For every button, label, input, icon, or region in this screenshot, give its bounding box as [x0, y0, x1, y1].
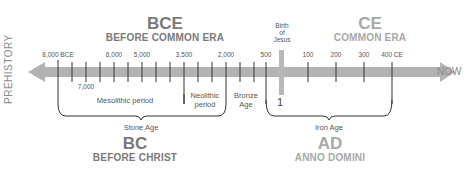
bce-full: BEFORE COMMON ERA [70, 32, 260, 43]
neolithic-line: period [186, 100, 224, 109]
iron-age-label: Iron Age [304, 123, 354, 132]
year-one-label: 1 [277, 96, 283, 108]
bronze-age-label: Bronze Age [228, 91, 264, 109]
bronze-line: Bronze [228, 91, 264, 100]
birth-marker [279, 50, 284, 95]
tick-label-3500: 3,500 [176, 51, 192, 58]
birth-of-jesus-label: Birth of Jesus [266, 22, 298, 43]
tick-label-300: 300 [359, 51, 370, 58]
now-label: NOW [437, 66, 461, 77]
stone-age-label: Stone Age [111, 123, 171, 132]
tick-label-8000: 8,000 BCE [42, 51, 73, 58]
ce-full: COMMON ERA [310, 32, 430, 43]
bc-full: BEFORE CHRIST [75, 152, 195, 163]
birth-label-line: Birth [266, 22, 298, 29]
tick-label-400: 400 CE [381, 51, 403, 58]
tick-label-100: 100 [303, 51, 314, 58]
birth-label-line: Jesus [266, 36, 298, 43]
neolithic-period-label: Neolithic period [186, 91, 224, 109]
ad-abbr: AD [290, 134, 370, 154]
birth-label-line: of [266, 29, 298, 36]
bc-abbr: BC [95, 134, 175, 154]
ad-full: ANNO DOMINI [280, 152, 380, 163]
tick-label-200: 200 [331, 51, 342, 58]
bronze-line: Age [228, 100, 264, 109]
tick-label-7000: 7,000 [78, 83, 94, 90]
neolithic-line: Neolithic [186, 91, 224, 100]
tick-label-5000: 5,000 [134, 51, 150, 58]
ce-abbr: CE [325, 14, 415, 34]
tick-label-6000: 6,000 [106, 51, 122, 58]
timeline-arrow [28, 62, 455, 82]
mesolithic-period-label: Mesolithic period [80, 96, 170, 105]
tick-label-2000: 2,000 [218, 51, 234, 58]
bce-abbr: BCE [100, 14, 230, 34]
tick-label-500: 500 [261, 51, 272, 58]
prehistory-label: PREHISTORY [3, 34, 14, 104]
